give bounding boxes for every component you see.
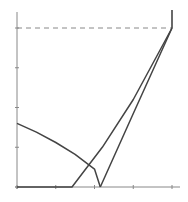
series-descending-curve [17,123,100,187]
series [17,28,172,187]
reference-lines [17,10,172,28]
chart [0,0,188,202]
series-steep-rise [100,28,172,187]
series-floor-then-rise [17,28,172,187]
axes [15,12,180,189]
